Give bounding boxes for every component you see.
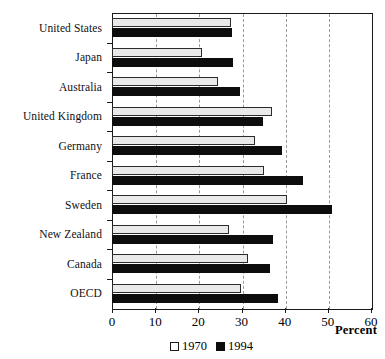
- bar-japan-1970: [112, 48, 202, 57]
- bar-united-kingdom-1970: [112, 107, 272, 116]
- category-label-united-states: United States: [0, 22, 102, 34]
- bar-canada-1970: [112, 254, 248, 263]
- bar-united-states-1970: [112, 18, 231, 27]
- bar-canada-1994: [112, 264, 270, 273]
- category-label-new-zealand: New Zealand: [0, 228, 102, 240]
- y-tick-5: [107, 161, 112, 162]
- legend-item-1994: 1994: [216, 340, 253, 353]
- x-tick-20: [198, 308, 199, 313]
- bar-sweden-1994: [112, 205, 332, 214]
- x-tick-10: [155, 308, 156, 313]
- x-tick-label-20: 20: [192, 314, 205, 329]
- x-tick-label-40: 40: [278, 314, 291, 329]
- horizontal-bar-chart: United StatesJapanAustraliaUnited Kingdo…: [0, 0, 385, 359]
- x-tick-label-10: 10: [149, 314, 162, 329]
- x-axis: 0102030405060: [112, 308, 371, 338]
- bar-sweden-1970: [112, 195, 287, 204]
- x-tick-label-50: 50: [321, 314, 334, 329]
- category-label-japan: Japan: [0, 51, 102, 63]
- y-tick-3: [107, 102, 112, 103]
- bar-new-zealand-1994: [112, 235, 273, 244]
- bar-new-zealand-1970: [112, 225, 229, 234]
- x-tick-60: [371, 308, 372, 313]
- x-tick-label-30: 30: [235, 314, 248, 329]
- y-tick-1: [107, 43, 112, 44]
- category-label-united-kingdom: United Kingdom: [0, 110, 102, 122]
- category-label-sweden: Sweden: [0, 199, 102, 211]
- y-tick-8: [107, 249, 112, 250]
- y-tick-7: [107, 220, 112, 221]
- bar-japan-1994: [112, 58, 233, 67]
- category-label-germany: Germany: [0, 140, 102, 152]
- bar-united-states-1994: [112, 28, 232, 37]
- bar-oecd-1994: [112, 294, 278, 303]
- category-label-canada: Canada: [0, 258, 102, 270]
- category-label-australia: Australia: [0, 81, 102, 93]
- category-label-france: France: [0, 169, 102, 181]
- chart-legend: 1970 1994: [170, 340, 253, 353]
- bar-germany-1970: [112, 136, 255, 145]
- x-tick-40: [285, 308, 286, 313]
- y-tick-9: [107, 279, 112, 280]
- bar-france-1994: [112, 176, 303, 185]
- x-tick-30: [242, 308, 243, 313]
- legend-label-1994: 1994: [228, 340, 253, 353]
- y-tick-6: [107, 190, 112, 191]
- x-tick-0: [112, 308, 113, 313]
- bar-germany-1994: [112, 146, 282, 155]
- bar-france-1970: [112, 166, 264, 175]
- category-axis: United StatesJapanAustraliaUnited Kingdo…: [0, 13, 107, 308]
- legend-swatch-1994-icon: [216, 342, 225, 351]
- bar-united-kingdom-1994: [112, 117, 263, 126]
- bar-oecd-1970: [112, 284, 241, 293]
- y-tick-2: [107, 72, 112, 73]
- legend-item-1970: 1970: [170, 340, 207, 353]
- x-axis-title: Percent: [335, 323, 377, 338]
- bars-layer: [112, 13, 371, 308]
- bar-australia-1994: [112, 87, 240, 96]
- x-tick-label-0: 0: [109, 314, 116, 329]
- category-label-oecd: OECD: [0, 287, 102, 299]
- legend-label-1970: 1970: [182, 340, 207, 353]
- legend-swatch-1970-icon: [170, 342, 179, 351]
- y-tick-4: [107, 131, 112, 132]
- x-tick-50: [328, 308, 329, 313]
- bar-australia-1970: [112, 77, 218, 86]
